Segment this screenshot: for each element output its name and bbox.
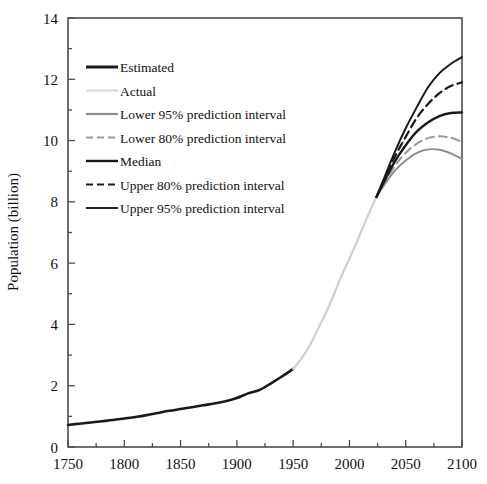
- x-tick-label: 1900: [222, 456, 252, 472]
- x-tick-label: 1800: [109, 456, 139, 472]
- figure-background: [0, 0, 487, 484]
- y-tick-label: 12: [43, 72, 58, 88]
- x-tick-label: 2100: [447, 456, 477, 472]
- y-tick-label: 2: [51, 378, 59, 394]
- x-tick-label: 2050: [391, 456, 421, 472]
- x-tick-label: 1750: [53, 456, 83, 472]
- legend-label: Estimated: [120, 60, 174, 75]
- y-tick-label: 6: [51, 256, 59, 272]
- legend-label: Upper 95% prediction interval: [120, 201, 285, 216]
- legend-label: Upper 80% prediction interval: [120, 178, 285, 193]
- x-tick-label: 2000: [334, 456, 364, 472]
- population-projection-figure: Population (billion) 1750180018501900195…: [0, 0, 487, 484]
- legend-label: Median: [120, 154, 161, 169]
- chart-canvas: Population (billion) 1750180018501900195…: [0, 0, 487, 484]
- y-tick-label: 14: [43, 11, 59, 27]
- legend-label: Lower 95% prediction interval: [120, 107, 286, 122]
- y-axis-title: Population (billion): [5, 173, 22, 291]
- y-tick-label: 4: [51, 317, 59, 333]
- y-tick-label: 8: [51, 194, 59, 210]
- x-tick-label: 1950: [278, 456, 308, 472]
- y-tick-label: 10: [43, 133, 58, 149]
- x-tick-label: 1850: [166, 456, 196, 472]
- legend-label: Actual: [120, 84, 156, 99]
- y-tick-label: 0: [51, 440, 59, 456]
- legend-label: Lower 80% prediction interval: [120, 131, 286, 146]
